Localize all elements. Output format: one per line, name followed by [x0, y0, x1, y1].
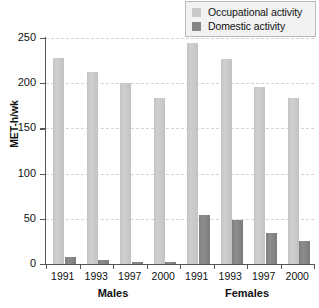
- x-axis-tick: [247, 265, 248, 269]
- legend-swatch-occupational: [192, 8, 201, 17]
- bar-occupational: [53, 58, 64, 264]
- bar-domestic: [199, 215, 210, 264]
- y-axis-tick: [40, 219, 45, 220]
- x-axis-tick: [180, 265, 181, 269]
- chart-legend: Occupational activity Domestic activity: [185, 1, 316, 37]
- y-axis-tick: [40, 38, 45, 39]
- y-axis-tick-label: 250: [0, 31, 36, 43]
- y-axis-tick: [40, 174, 45, 175]
- bar-domestic: [65, 257, 76, 264]
- y-axis-tick: [40, 83, 45, 84]
- y-axis-tick-label: 0: [0, 257, 36, 269]
- plot-area: [46, 38, 314, 264]
- bar-domestic: [266, 233, 277, 264]
- x-axis-tick: [214, 265, 215, 269]
- bar-occupational: [154, 98, 165, 264]
- x-axis-tick: [147, 265, 148, 269]
- bar-occupational: [87, 72, 98, 264]
- y-axis-tick-label: 200: [0, 76, 36, 88]
- x-axis-tick: [113, 265, 114, 269]
- bar-domestic: [232, 220, 243, 264]
- bar-occupational: [120, 83, 131, 264]
- bar-chart-figure: MET-h/wk Occupational activity Domestic …: [0, 0, 319, 308]
- x-axis-tick: [80, 265, 81, 269]
- y-axis-line: [45, 37, 46, 265]
- bar-occupational: [254, 87, 265, 264]
- bar-occupational: [288, 98, 299, 264]
- bar-occupational: [221, 59, 232, 264]
- x-axis-group-label: Females: [192, 287, 302, 299]
- y-axis-tick-label: 100: [0, 167, 36, 179]
- bar-domestic: [299, 241, 310, 265]
- x-axis-group-label: Males: [58, 287, 168, 299]
- legend-label-occupational: Occupational activity: [208, 6, 302, 18]
- y-axis-tick: [40, 264, 45, 265]
- x-axis-tick-label: 2000: [277, 270, 317, 282]
- legend-label-domestic: Domestic activity: [208, 20, 285, 32]
- x-axis-tick: [281, 265, 282, 269]
- y-axis-tick-label: 50: [0, 212, 36, 224]
- y-axis-tick-label: 150: [0, 121, 36, 133]
- gridline: [46, 38, 314, 39]
- legend-swatch-domestic: [192, 22, 201, 31]
- legend-item-occupational: Occupational activity: [189, 5, 311, 19]
- x-axis-tick: [314, 265, 315, 269]
- y-axis-tick: [40, 128, 45, 129]
- bar-occupational: [187, 43, 198, 264]
- x-axis-tick: [46, 265, 47, 269]
- legend-item-domestic: Domestic activity: [189, 19, 311, 33]
